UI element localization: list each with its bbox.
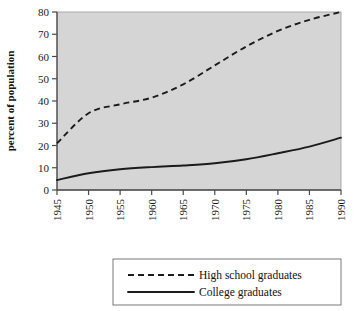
x-axis-tick-label: 1955 [114,199,126,222]
y-axis-tick-label: 70 [38,28,50,40]
y-axis-tick-label: 80 [38,6,50,18]
y-axis-tick-label: 60 [38,51,50,63]
x-axis-tick-label: 1965 [177,199,189,222]
y-axis-tick-label: 10 [38,162,50,174]
x-axis-tick-label: 1985 [303,199,315,222]
y-axis-title: percent of population [4,51,16,152]
line-chart-svg: 01020304050607080 1945195019551960196519… [0,0,356,311]
y-axis-tick-label: 30 [38,117,50,129]
legend-box [113,259,341,305]
x-axis-tick-label: 1980 [272,199,284,222]
x-axis: 1945195019551960196519701975198019851990 [51,190,347,221]
x-axis-tick-label: 1975 [240,198,252,221]
x-axis-tick-label: 1950 [83,199,95,222]
chart-figure: 01020304050607080 1945195019551960196519… [0,0,356,311]
y-axis-tick-label: 20 [38,140,50,152]
plot-area-background [57,12,341,190]
y-axis: 01020304050607080 [38,6,57,196]
y-axis-tick-label: 0 [44,184,50,196]
x-axis-tick-label: 1960 [146,199,158,222]
x-axis-tick-label: 1945 [51,199,63,222]
legend-label: College graduates [199,286,282,299]
x-axis-tick-label: 1990 [335,199,347,222]
legend-label: High school graduates [199,269,302,282]
y-axis-tick-label: 50 [38,73,50,85]
x-axis-tick-label: 1970 [209,199,221,222]
y-axis-tick-label: 40 [38,95,50,107]
